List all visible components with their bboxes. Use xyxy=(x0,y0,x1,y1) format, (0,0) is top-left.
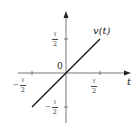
fraction: τ 2 xyxy=(91,78,97,94)
y-axis-arrow-icon xyxy=(64,11,69,18)
origin-label: 0 xyxy=(57,62,63,71)
fraction: τ 2 xyxy=(20,77,26,93)
plot-canvas xyxy=(0,0,139,130)
y-tick-label-pos-half: τ 2 xyxy=(52,31,58,47)
fraction: τ 2 xyxy=(52,31,58,47)
fraction: τ 2 xyxy=(52,99,58,115)
x-axis-label: t xyxy=(127,77,131,87)
x-tick-label-pos-half: τ 2 xyxy=(91,78,97,94)
x-tick-label-neg-half: − τ 2 xyxy=(13,77,26,93)
x-axis-arrow-icon xyxy=(124,71,131,76)
curve-label: v(t) xyxy=(93,26,110,36)
y-tick-label-neg-half: − τ 2 xyxy=(45,99,58,115)
